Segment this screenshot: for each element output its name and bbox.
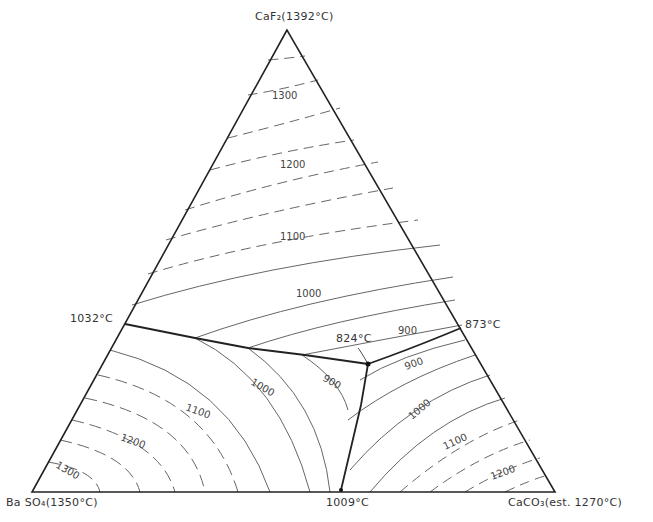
eutectic-label-right-edge: 873°C <box>465 318 501 331</box>
vertex-label-baso4: Ba SO₄(1350°C) <box>6 496 98 509</box>
svg-text:900: 900 <box>398 325 417 336</box>
vertex-label-caf2: CaF₂(1392°C) <box>255 10 334 23</box>
eutectic-label-left-edge: 1032°C <box>70 312 113 325</box>
svg-text:1300: 1300 <box>272 90 297 101</box>
vertex-label-caco3: CaCO₃(est. 1270°C) <box>508 496 622 509</box>
svg-text:900: 900 <box>321 372 343 391</box>
svg-text:1000: 1000 <box>296 288 321 299</box>
svg-text:1200: 1200 <box>489 463 517 482</box>
svg-text:1200: 1200 <box>280 159 305 170</box>
svg-text:1300: 1300 <box>54 459 82 481</box>
svg-text:1000: 1000 <box>249 376 277 398</box>
svg-text:1100: 1100 <box>280 231 305 242</box>
eutectic-label-bottom-edge: 1009°C <box>326 496 369 509</box>
svg-text:1100: 1100 <box>184 402 212 421</box>
field-boundaries <box>125 324 461 490</box>
ternary-diagram: 1300 1200 1100 1000 900 900 900 1000 110… <box>0 0 653 522</box>
isotherms-caco3-field <box>348 340 548 492</box>
isotherm-labels: 1300 1200 1100 1000 900 900 900 1000 110… <box>54 90 517 482</box>
svg-text:1200: 1200 <box>119 432 147 451</box>
ternary-eutectic-label: 824°C <box>336 332 372 345</box>
svg-text:1000: 1000 <box>406 397 433 422</box>
ternary-eutectic-point <box>366 362 371 367</box>
svg-text:1100: 1100 <box>441 431 469 452</box>
